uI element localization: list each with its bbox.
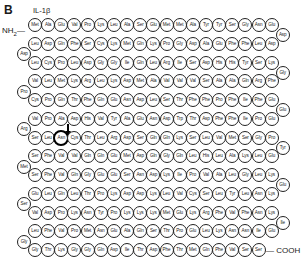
residue: Glu (276, 178, 290, 192)
residue: Cys (28, 93, 42, 107)
residue: Ser (146, 224, 160, 238)
residue: Phe (225, 37, 239, 51)
residue: Cys (94, 37, 108, 51)
residue: Met (28, 18, 42, 32)
residue: Ala (225, 74, 239, 88)
residue: Leu (160, 187, 174, 201)
residue: Gln (133, 224, 147, 238)
residue: Val (54, 224, 68, 238)
residue: Phe (41, 168, 55, 182)
residue: Val (199, 168, 213, 182)
residue: Asp (120, 74, 134, 88)
residue: Thr (41, 243, 55, 257)
residue: Ser (186, 131, 200, 145)
residue: Lys (107, 187, 121, 201)
residue: His (199, 149, 213, 163)
residue: Gly (238, 18, 252, 32)
residue: His (81, 112, 95, 126)
residue: Phe (186, 93, 200, 107)
residue: Asp (160, 112, 174, 126)
residue: Leu (107, 18, 121, 32)
residue: Asp (81, 56, 95, 70)
residue: Tyr (199, 18, 213, 32)
residue: Gln (54, 187, 68, 201)
residue: Thr (81, 131, 95, 145)
n-terminus-bond: — (17, 26, 25, 35)
residue: Val (67, 18, 81, 32)
residue: Met (120, 149, 134, 163)
residue: Leu (146, 56, 160, 70)
residue: Leu (146, 93, 160, 107)
residue: Met (160, 206, 174, 220)
residue: Met (17, 160, 31, 174)
residue: Pro (212, 93, 226, 107)
residue: Ser (252, 243, 266, 257)
residue: Pro (186, 168, 200, 182)
residue: Phe (81, 93, 95, 107)
residue: Met (120, 37, 134, 51)
residue: Glu (276, 103, 290, 117)
residue: Lys (160, 168, 174, 182)
residue: Gly (173, 37, 187, 51)
residue: Leu (28, 37, 42, 51)
residue: Met (173, 18, 187, 32)
residue: Ala (54, 112, 68, 126)
residue: Arg (81, 74, 95, 88)
residue: Ala (41, 18, 55, 32)
residue: Ala (146, 74, 160, 88)
residue: Thr (173, 93, 187, 107)
residue: Lys (54, 243, 68, 257)
il1b-sequence-diagram: B IL-1β NH2— — COOH MetAlaGluValProLysLe… (0, 0, 302, 267)
residue: Asn (120, 93, 134, 107)
residue: Asp (133, 187, 147, 201)
residue: Asp (186, 37, 200, 51)
residue: Gln (238, 74, 252, 88)
residue: Ser (28, 149, 42, 163)
residue: Arg (160, 56, 174, 70)
residue: Val (173, 187, 187, 201)
residue: Asn (252, 18, 266, 32)
residue: Glu (146, 18, 160, 32)
residue: Lys (146, 37, 160, 51)
residue: Gln (94, 149, 108, 163)
residue: Gly (94, 56, 108, 70)
residue: Asp (107, 243, 121, 257)
residue: Asp (17, 47, 31, 61)
residue: Met (225, 131, 239, 145)
residue: Phe (41, 224, 55, 238)
residue: His (212, 56, 226, 70)
residue: Leu (252, 149, 266, 163)
residue: Pro (107, 206, 121, 220)
residue: Asn (81, 206, 95, 220)
residue: Pro (160, 37, 174, 51)
residue: Leu (186, 149, 200, 163)
residue: Lys (173, 131, 187, 145)
residue: Leu (28, 224, 42, 238)
residue: Arg (17, 122, 31, 136)
residue: Thr (173, 243, 187, 257)
residue: Gly (252, 131, 266, 145)
residue: Asn (146, 112, 160, 126)
residue: Tyr (94, 206, 108, 220)
residue: Arg (199, 206, 213, 220)
residue: Leu (94, 131, 108, 145)
residue: Leu (252, 37, 266, 51)
residue: Leu (199, 224, 213, 238)
residue: Pro (252, 112, 266, 126)
arrow-head (65, 131, 71, 135)
residue: Lys (133, 206, 147, 220)
residue: Ile (173, 56, 187, 70)
residue: Gln (94, 243, 108, 257)
residue: Pro (67, 224, 81, 238)
residue: Lys (146, 206, 160, 220)
residue: Gly (28, 243, 42, 257)
residue: Asn (225, 224, 239, 238)
residue: Gly (107, 56, 121, 70)
residue: Leu (41, 74, 55, 88)
residue: Asp (120, 187, 134, 201)
residue: Gly (17, 235, 31, 249)
residue: Met (186, 243, 200, 257)
residue: Leu (67, 56, 81, 70)
residue: Gln (81, 149, 95, 163)
residue: Trp (173, 112, 187, 126)
